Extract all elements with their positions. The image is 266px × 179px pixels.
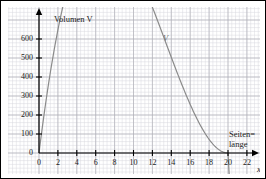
x-axis-variable-label: x [257,165,260,174]
y-tick-label: 500 [8,54,33,62]
y-tick-label: 300 [8,92,33,100]
x-tick-label: 16 [186,159,194,167]
y-tick-label: 100 [8,130,33,138]
y-tick-label: 400 [8,73,33,81]
tick-marks [36,39,247,156]
x-tick-label: 6 [94,159,98,167]
x-tick-label: 8 [113,159,117,167]
x-tick-label: 12 [148,159,156,167]
axes-layer [8,7,260,174]
plot-area: 02468101214161820220100200300400500600 V… [8,7,260,174]
axis-lines [36,8,259,156]
curve-annotation-label: V [163,33,168,43]
x-axis-title-line2: länge [229,140,255,150]
x-tick-label: 4 [75,159,79,167]
x-tick-label: 10 [130,159,138,167]
x-tick-label: 2 [56,159,60,167]
y-tick-label: 0 [8,149,33,157]
x-tick-label: 0 [37,159,41,167]
y-tick-label: 600 [8,35,33,43]
y-tick-label: 200 [8,111,33,119]
x-tick-label: 20 [224,159,232,167]
chart-figure: 02468101214161820220100200300400500600 V… [0,0,266,179]
x-tick-label: 14 [167,159,175,167]
x-axis-title: Seiten= länge [229,130,255,149]
x-tick-label: 18 [205,159,213,167]
y-axis-title: Volumen V [54,15,93,24]
x-tick-label: 22 [243,159,251,167]
